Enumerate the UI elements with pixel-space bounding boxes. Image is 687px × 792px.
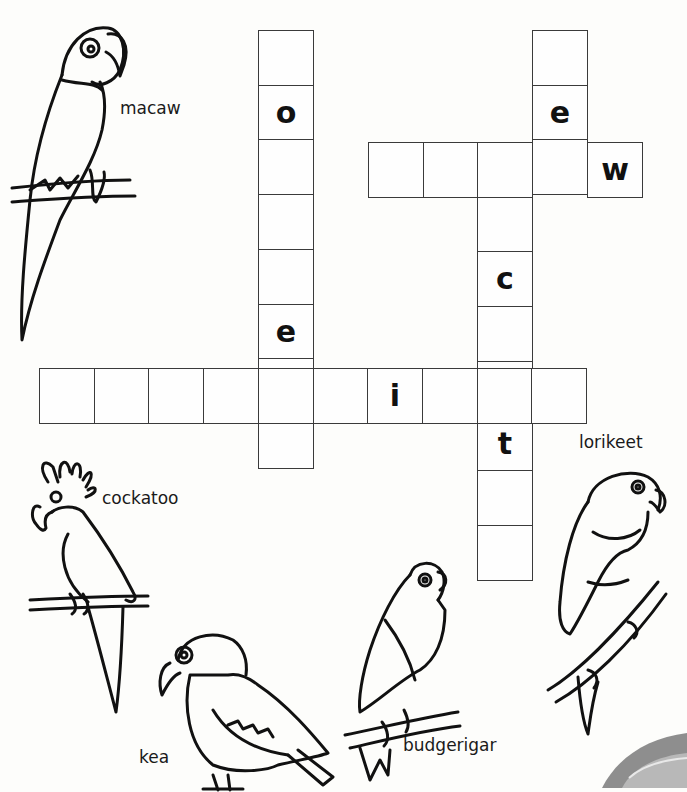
crossword-cell[interactable]	[531, 368, 587, 424]
crossword-cell[interactable]	[477, 470, 533, 526]
crossword-cell[interactable]	[258, 368, 314, 424]
crossword-cell-given[interactable]: e	[532, 85, 588, 141]
cockatoo-illustration	[28, 452, 153, 717]
lorikeet-illustration	[548, 462, 668, 737]
crossword-cell[interactable]	[532, 30, 588, 86]
crossword-cell[interactable]	[477, 306, 533, 362]
crossword-cell[interactable]	[258, 30, 314, 86]
label-lorikeet: lorikeet	[579, 432, 643, 452]
crossword-cell-given[interactable]: c	[477, 251, 533, 307]
crossword-cell-given[interactable]: w	[587, 142, 643, 198]
crossword-cell[interactable]	[477, 368, 533, 424]
kea-illustration	[158, 625, 338, 792]
crossword-cell[interactable]	[258, 249, 314, 305]
crossword-cell-given[interactable]: e	[258, 304, 314, 360]
crossword-cell[interactable]	[368, 142, 424, 198]
crossword-cell[interactable]	[477, 525, 533, 581]
crossword-cell[interactable]	[258, 139, 314, 195]
crossword-cell[interactable]	[313, 368, 369, 424]
crossword-cell[interactable]	[148, 368, 204, 424]
crossword-cell-given[interactable]: o	[258, 85, 314, 141]
decorative-corner-swoosh	[597, 718, 687, 792]
budgerigar-illustration	[340, 550, 465, 780]
crossword-cell[interactable]	[94, 368, 150, 424]
macaw-illustration	[10, 20, 140, 350]
crossword-cell-given[interactable]: i	[367, 368, 423, 424]
crossword-cell[interactable]	[422, 368, 478, 424]
crossword-cell[interactable]	[477, 142, 533, 198]
crossword-cell[interactable]	[203, 368, 259, 424]
crossword-cell[interactable]	[532, 139, 588, 195]
crossword-cell-given[interactable]: t	[477, 416, 533, 472]
crossword-cell[interactable]	[39, 368, 95, 424]
crossword-cell[interactable]	[258, 194, 314, 250]
crossword-cell[interactable]	[423, 142, 479, 198]
crossword-cell[interactable]	[477, 197, 533, 253]
